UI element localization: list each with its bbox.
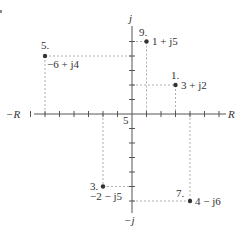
- point-1-dot: [173, 83, 177, 87]
- complex-plane-diagram: R −R j −j 5 9. 1 + j5 1. 3 + j2 5. −6 + …: [0, 0, 244, 238]
- axes: [34, 26, 226, 213]
- tick-label-5: 5: [123, 114, 129, 126]
- point-5-value: −6 + j4: [47, 58, 79, 70]
- point-1-value: 3 + j2: [181, 79, 207, 91]
- point-7-id: 7.: [176, 187, 185, 199]
- point-9-dot: [144, 39, 148, 43]
- real-axis-positive-label: R: [227, 108, 235, 120]
- imaginary-axis-negative-label: −j: [124, 214, 134, 226]
- corner-mark: [0, 10, 2, 13]
- point-7-dot: [188, 199, 192, 203]
- point-9-id: 9.: [139, 26, 148, 38]
- point-1-id: 1.: [171, 69, 180, 81]
- point-3-dot: [101, 184, 105, 188]
- real-axis-negative-label: −R: [6, 108, 20, 120]
- point-3-value: −2 − j5: [90, 190, 122, 202]
- point-7-value: 4 − j6: [195, 195, 221, 207]
- point-9-value: 1 + j5: [152, 35, 178, 47]
- point-5-id: 5.: [41, 39, 50, 51]
- imaginary-axis-positive-label: j: [127, 12, 132, 24]
